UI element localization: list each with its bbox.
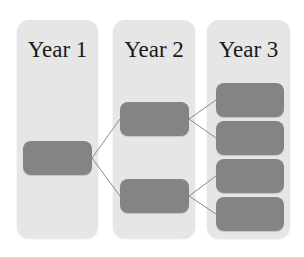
node-year-2-1 [120, 102, 189, 136]
column-title-year-1: Year 1 [17, 37, 98, 63]
node-year-1-1 [23, 141, 92, 175]
column-title-year-3: Year 3 [207, 37, 290, 63]
node-year-3-3 [216, 159, 284, 193]
column-title-year-2: Year 2 [113, 37, 195, 63]
column-year-1: Year 1 [17, 20, 98, 238]
node-year-2-2 [120, 179, 189, 213]
node-year-3-2 [216, 121, 284, 155]
node-year-3-1 [216, 83, 284, 117]
node-year-3-4 [216, 197, 284, 231]
